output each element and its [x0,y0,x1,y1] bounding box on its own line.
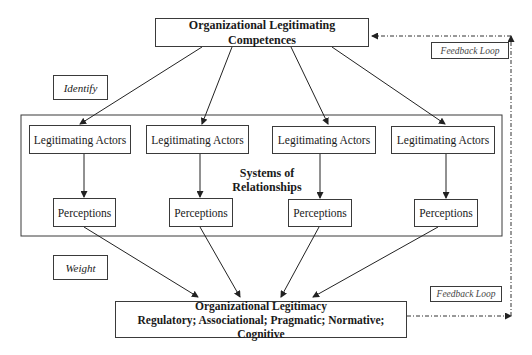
actor-box-3: Legitimating Actors [272,126,376,154]
actor-box-1: Legitimating Actors [29,125,131,154]
actor-label: Legitimating Actors [151,134,243,146]
legitimacy-subtitle: Regulatory; Associational; Pragmatic; No… [116,313,406,341]
perception-label: Perceptions [174,207,228,219]
feedback-loop-bottom-label: Feedback Loop [437,289,496,299]
identify-label: Identify [64,82,98,94]
actor-label: Legitimating Actors [397,134,489,146]
systems-of-relationships-label: Systems of Relationships [222,166,312,194]
feedback-loop-top-box: Feedback Loop [431,42,509,59]
perception-label: Perceptions [293,207,347,219]
actor-box-2: Legitimating Actors [146,125,249,154]
perception-label: Perceptions [419,207,473,219]
actor-label: Legitimating Actors [278,134,370,146]
feedback-loop-top-label: Feedback Loop [441,46,500,56]
systems-line1: Systems of [222,166,312,180]
perception-label: Perceptions [58,207,112,219]
actor-box-4: Legitimating Actors [391,126,495,154]
competences-box: Organizational Legitimating Competences [155,18,369,47]
perception-box-1: Perceptions [53,198,116,227]
weight-box: Weight [53,255,108,280]
systems-line2: Relationships [222,180,312,194]
competences-label: Organizational Legitimating Competences [156,18,368,48]
legitimacy-box: Organizational Legitimacy Regulatory; As… [115,301,407,338]
feedback-loop-bottom-box: Feedback Loop [430,286,502,302]
actor-label: Legitimating Actors [34,134,126,146]
weight-label: Weight [65,262,95,274]
identify-box: Identify [53,75,108,100]
perception-box-3: Perceptions [288,199,352,227]
perception-box-4: Perceptions [414,199,478,227]
perception-box-2: Perceptions [169,198,233,227]
legitimacy-title: Organizational Legitimacy [195,299,327,313]
